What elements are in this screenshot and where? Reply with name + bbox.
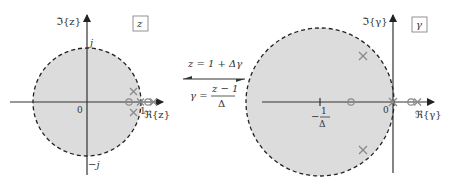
origin-label: 0 [77,105,83,115]
mapping-arrows: z = 1 + Δγ γ = z − 1 Δ [183,58,245,109]
tick-label-minus-j: −j [88,159,99,170]
inverse-mapping-numerator: z − 1 [211,83,238,94]
z-plane-tag: z [136,18,143,29]
tick-label-denominator: Δ [319,119,326,129]
tick-label-one: 1 [140,106,146,116]
gamma-origin-label: 0 [383,105,389,115]
z-real-axis-label: ℜ{z} [144,109,170,120]
gamma-real-axis-label: ℜ{γ} [415,109,442,120]
tick-label-numerator: 1 [321,106,327,116]
inverse-mapping-lhs: γ = [190,90,208,101]
z-imag-axis-label: ℑ{z} [56,16,81,27]
gamma-imag-axis-label: ℑ{γ} [362,16,388,27]
pole-zero-mapping-diagram: ℑ{z} ℜ{z} j −j 0 1 z z = 1 + Δγ γ = z − … [0,0,450,185]
forward-mapping-formula: z = 1 + Δγ [187,58,242,69]
gamma-plane-tag: γ [416,19,422,30]
gamma-plane: ℑ{γ} ℜ{γ} 0 − 1 Δ γ [246,15,442,176]
tick-label-j: j [88,37,93,48]
inverse-mapping-denominator: Δ [218,98,225,109]
z-plane: ℑ{z} ℜ{z} j −j 0 1 z [10,15,170,175]
